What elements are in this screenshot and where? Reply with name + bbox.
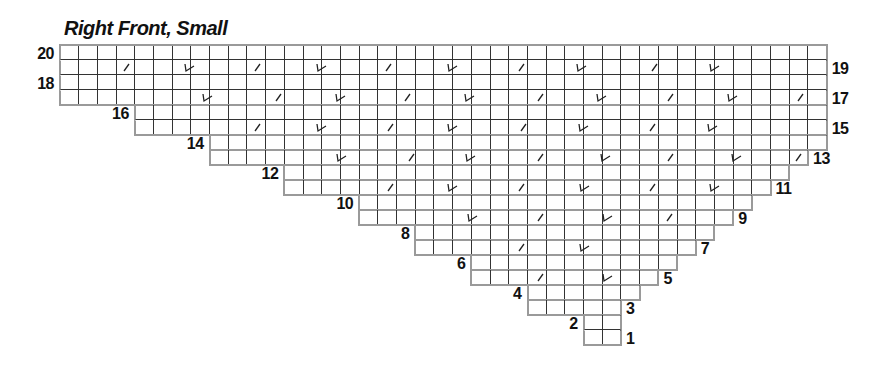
stitch-cell	[565, 150, 584, 165]
stitch-cell	[528, 255, 547, 270]
stitch-cell	[715, 90, 734, 105]
stitch-cell	[490, 210, 509, 225]
row-number-label: 16	[89, 106, 129, 121]
stitch-cell	[341, 105, 360, 120]
stitch-cell	[359, 90, 378, 105]
stitch-cell	[210, 75, 229, 90]
stitch-cell	[584, 60, 603, 75]
stitch-cell	[546, 270, 565, 285]
stitch-cell	[752, 75, 771, 90]
stitch-cell	[658, 210, 677, 225]
stitch-cell	[602, 45, 621, 60]
row-number-label: 9	[738, 211, 746, 226]
stitch-cell	[434, 180, 453, 195]
stitch-cell	[771, 150, 790, 165]
stitch-cell	[658, 105, 677, 120]
stitch-cell	[733, 135, 752, 150]
stitch-cell	[453, 180, 472, 195]
stitch-cell	[303, 75, 322, 90]
stitch-cell	[621, 120, 640, 135]
stitch-cell	[565, 255, 584, 270]
stitch-cell	[490, 255, 509, 270]
stitch-cell	[490, 165, 509, 180]
stitch-cell	[378, 210, 397, 225]
stitch-cell	[378, 135, 397, 150]
stitch-cell	[266, 60, 285, 75]
stitch-cell	[565, 240, 584, 255]
stitch-cell	[546, 285, 565, 300]
stitch-cell	[733, 90, 752, 105]
stitch-cell	[415, 180, 434, 195]
stitch-cell	[584, 285, 603, 300]
stitch-cell	[453, 210, 472, 225]
stitch-cell	[752, 150, 771, 165]
row-number-label: 1	[626, 331, 634, 346]
stitch-cell	[602, 135, 621, 150]
stitch-cell	[715, 120, 734, 135]
stitch-cell	[640, 135, 659, 150]
stitch-cell	[771, 90, 790, 105]
stitch-cell	[228, 90, 247, 105]
stitch-cell	[771, 105, 790, 120]
stitch-cell	[341, 60, 360, 75]
stitch-cell	[378, 180, 397, 195]
stitch-cell	[509, 135, 528, 150]
stitch-cell	[135, 60, 154, 75]
stitch-cell	[509, 105, 528, 120]
stitch-cell	[341, 120, 360, 135]
stitch-cell	[471, 180, 490, 195]
stitch-cell	[528, 90, 547, 105]
stitch-cell	[60, 60, 79, 75]
stitch-cell	[565, 165, 584, 180]
stitch-cell	[789, 135, 808, 150]
stitch-cell	[677, 135, 696, 150]
stitch-cell	[434, 225, 453, 240]
stitch-cell	[621, 90, 640, 105]
stitch-cell	[621, 150, 640, 165]
stitch-cell	[546, 225, 565, 240]
stitch-cell	[658, 90, 677, 105]
stitch-cell	[97, 75, 116, 90]
stitch-cell	[434, 45, 453, 60]
stitch-cell	[733, 60, 752, 75]
stitch-cell	[453, 150, 472, 165]
stitch-cell	[546, 75, 565, 90]
stitch-cell	[266, 105, 285, 120]
stitch-cell	[266, 45, 285, 60]
stitch-cell	[565, 210, 584, 225]
stitch-cell	[696, 195, 715, 210]
stitch-cell	[415, 45, 434, 60]
stitch-cell	[322, 120, 341, 135]
stitch-cell	[584, 315, 603, 330]
stitch-cell	[284, 75, 303, 90]
stitch-cell	[60, 90, 79, 105]
stitch-cell	[658, 135, 677, 150]
stitch-cell	[415, 165, 434, 180]
stitch-cell	[228, 105, 247, 120]
stitch-cell	[789, 90, 808, 105]
stitch-cell	[602, 210, 621, 225]
stitch-cell	[135, 45, 154, 60]
stitch-cell	[584, 180, 603, 195]
stitch-cell	[771, 60, 790, 75]
stitch-cell	[341, 180, 360, 195]
stitch-cell	[658, 75, 677, 90]
row-number-label: 7	[701, 241, 709, 256]
stitch-cell	[696, 45, 715, 60]
stitch-cell	[97, 45, 116, 60]
stitch-cell	[453, 45, 472, 60]
stitch-cell	[378, 75, 397, 90]
stitch-cell	[602, 180, 621, 195]
row-number-label: 11	[776, 181, 792, 196]
stitch-cell	[172, 120, 191, 135]
stitch-cell	[621, 45, 640, 60]
stitch-cell	[490, 75, 509, 90]
stitch-cell	[546, 105, 565, 120]
stitch-cell	[359, 45, 378, 60]
stitch-cell	[602, 270, 621, 285]
stitch-cell	[378, 150, 397, 165]
stitch-cell	[415, 210, 434, 225]
stitch-cell	[584, 135, 603, 150]
stitch-cell	[789, 45, 808, 60]
stitch-cell	[584, 75, 603, 90]
